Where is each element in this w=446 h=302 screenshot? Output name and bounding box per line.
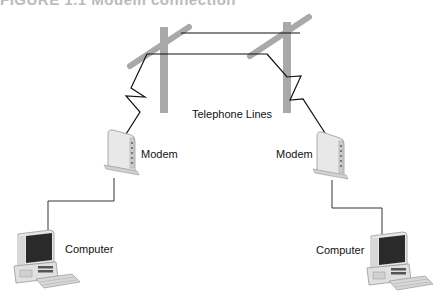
modem-right-label: Modem <box>276 148 313 160</box>
computer-left-icon <box>14 230 80 288</box>
computer-left-label: Computer <box>65 243 113 255</box>
wire-modem-to-computer-right <box>332 180 382 234</box>
wire-pole-to-modem-left <box>121 54 147 142</box>
modem-connection-diagram: FIGURE 1.1 Modem connection <box>0 0 446 302</box>
telephone-pole-right-icon <box>250 17 309 113</box>
wire-pole-to-modem-right <box>267 54 325 133</box>
telephone-lines-label: Telephone Lines <box>192 108 272 120</box>
modem-right-icon <box>313 132 348 179</box>
diagram-canvas <box>0 0 446 302</box>
computer-right-icon <box>367 232 433 290</box>
modem-left-icon <box>104 130 139 175</box>
computer-right-label: Computer <box>316 244 364 256</box>
modem-left-label: Modem <box>141 148 178 160</box>
wire-modem-to-computer-left <box>48 178 114 230</box>
